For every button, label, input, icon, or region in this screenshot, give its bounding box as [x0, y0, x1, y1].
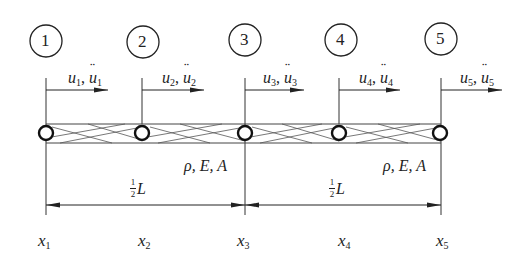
beam-node-2	[135, 126, 149, 140]
fraction-one-half: 12	[329, 178, 335, 199]
node-number-3: 3	[240, 31, 249, 48]
coord-label-x1: x1	[38, 232, 51, 251]
beam-node-5	[433, 126, 447, 140]
coord-label-x4: x4	[338, 232, 351, 251]
coord-label-x2: x2	[138, 232, 151, 251]
node-number-5: 5	[436, 30, 445, 47]
disp-label-5: u5, u5	[460, 70, 494, 88]
coord-label-x3: x3	[237, 232, 250, 251]
dimension-label-2: 12 L	[329, 178, 345, 199]
material-properties-1: ρ, E, A	[184, 158, 227, 174]
disp-label-1: u1, u1	[68, 70, 102, 88]
coord-label-x5: x5	[436, 232, 449, 251]
material-properties-2: ρ, E, A	[383, 158, 426, 174]
beam-node-3	[238, 126, 252, 140]
disp-label-3: u3, u3	[263, 70, 297, 88]
bar-element-diagram: 1 2 3 4 5 u1, u1 u2, u2 u3, u3 u4, u4 u5…	[0, 0, 529, 261]
beam-node-4	[332, 126, 346, 140]
disp-label-2: u2, u2	[162, 70, 196, 88]
node-number-2: 2	[138, 33, 147, 50]
beam-node-1	[39, 126, 53, 140]
disp-label-4: u4, u4	[359, 70, 393, 88]
diagram-canvas	[0, 0, 529, 261]
node-number-1: 1	[41, 32, 50, 49]
node-vertical-lines	[46, 78, 441, 215]
dimension-label-1: 12 L	[130, 178, 146, 199]
node-number-4: 4	[336, 31, 345, 48]
fraction-one-half: 12	[130, 178, 136, 199]
